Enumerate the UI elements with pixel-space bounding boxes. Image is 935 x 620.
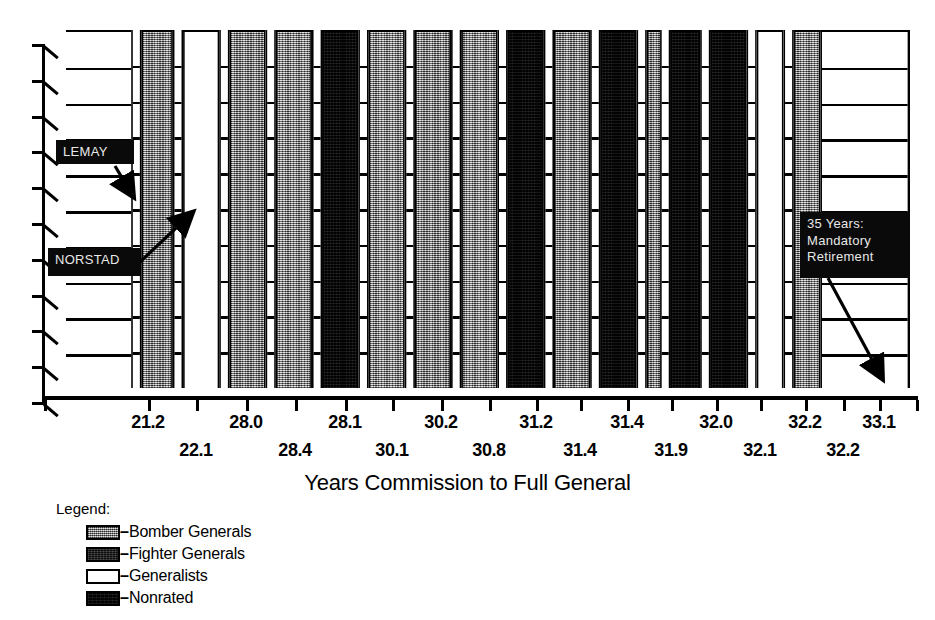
x-axis-tick: [489, 400, 492, 411]
legend-swatch-fighter: [86, 547, 120, 562]
gridline: [453, 245, 460, 248]
bar-side-face: [637, 30, 647, 388]
gridline: [406, 352, 413, 355]
gridline: [662, 209, 669, 212]
gridline: [592, 316, 599, 319]
bar-bomber-33-1: [794, 30, 821, 388]
bar-side-face: [497, 30, 507, 388]
x-tick-label: 21.2: [122, 412, 174, 433]
gridline: [822, 175, 908, 178]
gridline: [133, 66, 140, 69]
gridline: [785, 316, 792, 319]
gridline: [174, 316, 181, 319]
bar-bomber-31-4: [554, 30, 590, 388]
gridline: [545, 316, 552, 319]
bar-bomber-30-8: [415, 30, 451, 388]
legend-item-generalist: –Generalists: [86, 565, 386, 587]
x-tick-label: 32.2: [817, 440, 869, 461]
gridline: [174, 281, 181, 284]
gridline: [822, 318, 908, 321]
gridline: [174, 352, 181, 355]
x-axis-tick: [879, 400, 882, 411]
gridline: [545, 245, 552, 248]
gridline: [174, 209, 181, 212]
bar-side-face: [173, 30, 183, 388]
y-axis-depth-connector: [43, 368, 59, 382]
x-axis-tick: [671, 400, 674, 411]
x-tick-label: 28.0: [220, 412, 272, 433]
gridline: [406, 245, 413, 248]
bar-bomber-22-1: [141, 30, 172, 388]
gridline: [748, 316, 755, 319]
bar-side-face: [312, 30, 322, 388]
y-axis-depth-connector: [43, 117, 59, 131]
gridline: [822, 354, 908, 357]
gridline: [499, 102, 506, 105]
bar-nonrated-32-2: [710, 30, 746, 388]
x-axis-tick: [196, 400, 199, 411]
bar-nonrated-32-1: [670, 30, 700, 388]
x-axis-end-tick: [44, 400, 47, 411]
gridline: [133, 209, 140, 212]
x-tick-label: 30.1: [366, 440, 418, 461]
gridline: [66, 211, 137, 214]
x-tick-label: 22.1: [170, 440, 222, 461]
gridline: [360, 316, 367, 319]
gridline: [592, 102, 599, 105]
gridline: [267, 209, 274, 212]
gridline: [785, 209, 792, 212]
gridline: [267, 281, 274, 284]
y-axis-tick: [32, 80, 44, 83]
gridline: [748, 102, 755, 105]
gridline: [314, 173, 321, 176]
gridline: [662, 281, 669, 284]
gridline: [221, 209, 228, 212]
bar-nonrated-30-1: [322, 30, 358, 388]
bar-side-face: [783, 30, 793, 388]
x-axis-tick: [295, 400, 298, 411]
bar-side-face: [747, 30, 757, 388]
gridline: [748, 209, 755, 212]
gridline: [221, 137, 228, 140]
legend-item-fighter: –Fighter Generals: [86, 543, 386, 565]
gridline: [702, 137, 709, 140]
gridline: [406, 66, 413, 69]
gridline: [174, 173, 181, 176]
gridline: [267, 66, 274, 69]
bar-side-face: [266, 30, 276, 388]
gridline: [592, 66, 599, 69]
gridline: [748, 173, 755, 176]
bar-bomber-31-2: [461, 30, 497, 388]
x-axis-tick: [246, 400, 249, 411]
bar-side-face: [590, 30, 600, 388]
legend-label: Nonrated: [129, 589, 193, 607]
gridline: [702, 66, 709, 69]
gridline: [174, 245, 181, 248]
x-axis-tick: [441, 400, 444, 411]
gridline: [453, 137, 460, 140]
bar-side-face: [358, 30, 368, 388]
gridline: [360, 102, 367, 105]
gridline: [314, 281, 321, 284]
legend-label: Generalists: [129, 567, 208, 585]
gridline: [822, 139, 908, 142]
gridline: [748, 245, 755, 248]
bar-generalist-21-2: [66, 30, 138, 388]
gridline: [453, 102, 460, 105]
gridline: [314, 66, 321, 69]
y-axis-depth-connector: [43, 224, 59, 238]
gridline: [221, 352, 228, 355]
gridline: [822, 283, 908, 286]
gridline: [499, 352, 506, 355]
gridline: [499, 245, 506, 248]
gridline: [406, 316, 413, 319]
gridline: [499, 66, 506, 69]
legend-dash: –: [120, 589, 129, 607]
y-axis-depth-connector: [43, 189, 59, 203]
gridline: [638, 173, 645, 176]
x-axis-line: [42, 396, 918, 400]
gridline: [748, 352, 755, 355]
y-axis-tick: [32, 116, 44, 119]
x-tick-label: 31.4: [554, 440, 606, 461]
gridline: [638, 316, 645, 319]
